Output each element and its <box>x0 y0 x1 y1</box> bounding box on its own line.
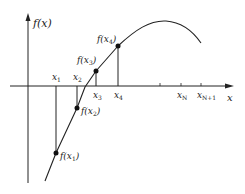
point-f-x1 <box>54 151 59 156</box>
tick-label-x1: x1 <box>52 72 61 83</box>
point-label-f-x4: f(x4) <box>96 34 117 45</box>
y-axis-arrow-icon <box>26 13 31 21</box>
tick-label-xN: xN <box>177 90 187 101</box>
point-label-f-x1: f(x1) <box>59 151 80 162</box>
tick-label-x3: x3 <box>93 90 102 101</box>
point-label-f-x3: f(x3) <box>76 55 97 66</box>
secant-method-diagram: f(x) x x1 x2 x3 x4 xN xN+1 f(x1) <box>0 0 245 194</box>
point-f-x4 <box>116 44 121 49</box>
x-axis <box>10 84 234 89</box>
tick-label-xN1: xN+1 <box>197 90 216 101</box>
point-label-f-x2: f(x2) <box>80 106 101 117</box>
y-axis <box>26 13 31 183</box>
point-f-x2 <box>75 106 80 111</box>
tick-label-x4: x4 <box>114 90 123 101</box>
tick-label-x2: x2 <box>73 72 82 83</box>
x-axis-label: x <box>227 92 233 103</box>
x-axis-arrow-icon <box>225 84 234 89</box>
y-axis-label: f(x) <box>32 17 52 30</box>
point-f-x3 <box>94 69 99 74</box>
